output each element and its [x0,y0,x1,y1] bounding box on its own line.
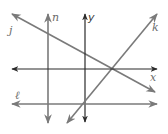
label-j: j [6,24,13,37]
label-y: y [87,11,95,24]
label-n: n [52,11,59,24]
label-l: ℓ [15,89,20,102]
diagram-canvas: j n y k x ℓ [0,0,168,134]
lines-diagram: j n y k x ℓ [0,0,168,134]
label-x: x [150,71,157,84]
label-k: k [152,21,159,34]
line-j [12,14,155,92]
